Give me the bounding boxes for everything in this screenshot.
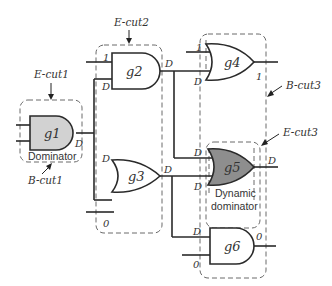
ecut3-label: E-cut3	[282, 126, 318, 138]
ecut3-arrow	[265, 134, 279, 143]
g6-input1-value: D	[192, 226, 201, 237]
bcut3-label: B-cut3	[285, 79, 321, 91]
ecut2-label: E-cut2	[113, 16, 149, 28]
g3-label: g3	[128, 169, 145, 184]
g4-input2-value: D	[193, 76, 202, 87]
g5-input1-value: D	[193, 147, 202, 158]
g3-output-value: D	[163, 164, 172, 175]
ecut1-arrowhead	[48, 94, 54, 100]
g5-output-value: D	[267, 155, 276, 166]
g2-input1-value: 1	[103, 52, 109, 63]
g2-label: g2	[126, 64, 143, 79]
g2-input2-value: D	[101, 81, 110, 92]
g3-input2-value: 0	[103, 218, 110, 229]
ecut3-arrowhead	[261, 139, 268, 146]
g4-label: g4	[224, 55, 241, 70]
ecut2-arrowhead	[126, 38, 132, 44]
dynamic-dominator-label-line1: Dynamic	[215, 187, 256, 199]
bcut1-label: B-cut1	[27, 174, 63, 186]
g6-input2-value: 0	[193, 259, 200, 270]
g1-label: g1	[44, 126, 61, 141]
dominator-label: Dominator	[28, 150, 77, 162]
g4-output-value: 1	[256, 71, 262, 82]
dynamic-dominator-label-line2: dominator	[211, 200, 258, 212]
g5-label: g5	[224, 160, 241, 175]
g3-input1-value: D	[101, 153, 110, 164]
bcut3-arrowhead	[267, 90, 274, 97]
ecut1-label: E-cut1	[33, 68, 69, 80]
g4-input1-value: 1	[196, 42, 202, 53]
g6-label: g6	[224, 239, 241, 254]
circuit-diagram: g1 g2 g3 g4 g5 g6 D 1 D D D 0 D 1 D 1 D …	[0, 0, 332, 286]
g5-input2-value: D	[193, 181, 202, 192]
g2-output-value: D	[164, 58, 173, 69]
g6-output-value: 0	[256, 231, 263, 242]
g1-output-value: D	[74, 138, 83, 149]
